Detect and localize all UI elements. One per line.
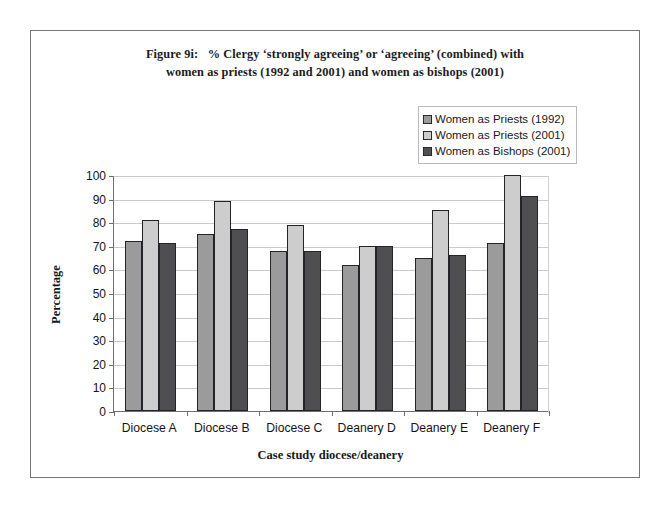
legend-item[interactable]: Women as Priests (2001) <box>423 127 570 143</box>
y-axis-tick-label: 30 <box>93 334 106 348</box>
bar[interactable] <box>231 229 248 411</box>
legend-swatch-icon <box>423 147 432 156</box>
bar-group <box>114 176 187 411</box>
y-axis-title-label: Percentage <box>49 265 64 324</box>
x-axis-tick <box>332 411 333 416</box>
x-axis-title-label: Case study diocese/deanery <box>258 448 404 462</box>
bar[interactable] <box>214 201 231 411</box>
bar-group <box>477 176 550 411</box>
bar[interactable] <box>304 251 321 411</box>
bar[interactable] <box>287 225 304 411</box>
bar[interactable] <box>197 234 214 411</box>
bar[interactable] <box>504 175 521 411</box>
x-axis-tick <box>549 411 550 416</box>
bar[interactable] <box>359 246 376 411</box>
x-axis-tick <box>477 411 478 416</box>
chart-title: Figure 9i: % Clergy ‘strongly agreeing’ … <box>31 45 639 81</box>
y-axis-tick-label: 10 <box>93 381 106 395</box>
bar[interactable] <box>125 241 142 411</box>
chart-title-line-2: women as priests (1992 and 2001) and wom… <box>31 63 639 81</box>
bar[interactable] <box>376 246 393 411</box>
bar[interactable] <box>487 243 504 411</box>
bar[interactable] <box>449 255 466 411</box>
x-axis-category-label: Deanery E <box>403 421 476 435</box>
x-axis-category-label: Deanery D <box>331 421 404 435</box>
y-axis-tick-label: 20 <box>93 358 106 372</box>
bar[interactable] <box>415 258 432 411</box>
bar[interactable] <box>521 196 538 411</box>
legend-item-label: Women as Priests (1992) <box>435 113 565 125</box>
y-axis-tick-label: 90 <box>93 193 106 207</box>
bar[interactable] <box>342 265 359 411</box>
chart-title-line-1: Figure 9i: % Clergy ‘strongly agreeing’ … <box>31 45 639 63</box>
y-axis-tick-label: 100 <box>86 169 106 183</box>
x-axis-tick <box>259 411 260 416</box>
x-axis-tick <box>187 411 188 416</box>
y-axis-tick-label: 70 <box>93 240 106 254</box>
x-axis-category-label: Diocese A <box>113 421 186 435</box>
bar[interactable] <box>159 243 176 411</box>
legend-swatch-icon <box>423 131 432 140</box>
plot-area: 0102030405060708090100 <box>113 176 548 412</box>
y-axis-title: Percentage <box>47 176 65 412</box>
x-axis-tick <box>404 411 405 416</box>
x-axis-title: Case study diocese/deanery <box>113 448 548 463</box>
legend-item[interactable]: Women as Bishops (2001) <box>423 143 570 159</box>
y-axis-tick-label: 50 <box>93 287 106 301</box>
chart-legend: Women as Priests (1992)Women as Priests … <box>418 106 577 164</box>
y-axis-tick-label: 0 <box>99 405 106 419</box>
x-axis-tick <box>114 411 115 416</box>
legend-item-label: Women as Priests (2001) <box>435 129 565 141</box>
x-axis-category-label: Deanery F <box>476 421 549 435</box>
x-axis-category-label: Diocese C <box>258 421 331 435</box>
bar-group <box>332 176 405 411</box>
bar[interactable] <box>270 251 287 411</box>
bar[interactable] <box>432 210 449 411</box>
legend-item[interactable]: Women as Priests (1992) <box>423 111 570 127</box>
bar-group <box>259 176 332 411</box>
bar[interactable] <box>142 220 159 411</box>
y-axis-tick-label: 40 <box>93 311 106 325</box>
bar-group <box>187 176 260 411</box>
bar-group <box>404 176 477 411</box>
legend-item-label: Women as Bishops (2001) <box>435 145 570 157</box>
legend-swatch-icon <box>423 115 432 124</box>
x-axis-category-label: Diocese B <box>186 421 259 435</box>
y-axis-tick-label: 60 <box>93 263 106 277</box>
y-axis-tick-label: 80 <box>93 216 106 230</box>
